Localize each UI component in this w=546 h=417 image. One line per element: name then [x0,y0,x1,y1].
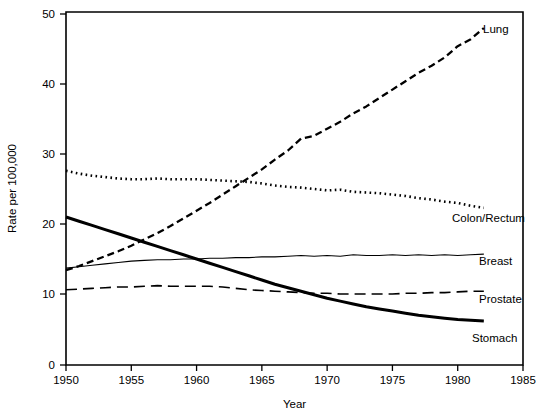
series-line-breast [66,254,484,268]
series-label-lung: Lung [483,23,509,35]
axis-frame [66,12,523,365]
y-tick-label-20: 20 [42,218,55,230]
x-tick-label-1980: 1980 [445,374,471,386]
series-label-group: LungColon/RectumBreastProstateStomach [452,23,525,344]
x-tick-label-1955: 1955 [118,374,144,386]
y-axis-title: Rate per 100,000 [6,144,18,233]
x-tick-label-1965: 1965 [249,374,275,386]
y-axis-tick-labels: 01020304050 [42,8,55,371]
plot-frame [66,12,523,365]
x-tick-label-1950: 1950 [53,374,79,386]
series-label-prostate: Prostate [479,293,522,305]
y-tick-label-50: 50 [42,8,55,20]
x-tick-label-1960: 1960 [184,374,210,386]
series-line-colon-rectum [66,171,484,208]
series-label-breast: Breast [479,255,513,267]
x-axis-title: Year [283,398,306,410]
y-tick-label-0: 0 [49,359,55,371]
x-tick-label-1985: 1985 [510,374,536,386]
chart-canvas: 01020304050 1950195519601965197019751980… [0,0,546,417]
x-tick-label-1975: 1975 [380,374,406,386]
x-axis-tick-labels: 19501955196019651970197519801985 [53,374,536,386]
series-label-stomach: Stomach [472,332,517,344]
series-line-prostate [66,286,484,294]
series-label-colon-rectum: Colon/Rectum [452,212,525,224]
cancer-mortality-line-chart: 01020304050 1950195519601965197019751980… [0,0,546,417]
y-tick-label-10: 10 [42,288,55,300]
x-tick-label-1970: 1970 [314,374,340,386]
y-axis-tick-marks [60,14,66,365]
data-series-group [66,28,484,321]
series-line-stomach [66,217,484,321]
y-tick-label-30: 30 [42,148,55,160]
series-line-lung [66,28,484,270]
y-tick-label-40: 40 [42,78,55,90]
x-axis-tick-marks [66,365,523,371]
